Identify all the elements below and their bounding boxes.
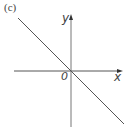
x-axis-label: x: [114, 70, 121, 84]
panel-label: (c): [4, 1, 16, 13]
y-axis-arrow-icon: [69, 14, 73, 20]
diagram-figure: (c) y x 0: [0, 0, 128, 133]
origin-label: 0: [61, 70, 68, 83]
y-axis-label: y: [62, 11, 69, 25]
